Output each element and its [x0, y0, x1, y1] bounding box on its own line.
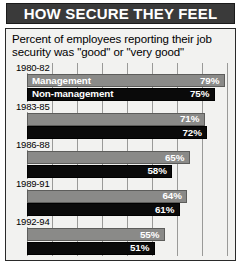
bar-value-label: 55% [140, 230, 160, 240]
category-label: 1989-91 [15, 179, 51, 189]
category-label: 1980-82 [15, 63, 51, 73]
bar-group: 1980-82Management79%Non-management75% [13, 63, 229, 102]
category-label: 1992-94 [15, 217, 51, 227]
bar-value-label: 72% [182, 128, 202, 138]
bar-value-label: 65% [165, 153, 185, 163]
bar-value-label: 58% [147, 166, 167, 176]
bar-non-management: 51% [27, 242, 155, 255]
bar-group: 1992-9455%51% [13, 217, 229, 256]
category-label: 1986-88 [15, 140, 51, 150]
bar-non-management: 72% [27, 126, 207, 139]
bar-non-management: Non-management75% [27, 88, 215, 101]
bar-management: Management79% [27, 74, 225, 87]
bar-management: 71% [27, 113, 205, 126]
chart-figure: HOW SECURE THEY FEEL Percent of employee… [0, 0, 241, 265]
bar-value-label: 64% [162, 191, 182, 201]
bar-value-label: 51% [130, 243, 150, 253]
bar-management: 55% [27, 228, 165, 241]
series-legend-label: Management [32, 76, 91, 86]
chart-title-banner: HOW SECURE THEY FEEL [6, 3, 235, 24]
bar-value-label: 75% [190, 89, 210, 99]
bar-management: 65% [27, 151, 190, 164]
category-label: 1983-85 [15, 102, 51, 112]
bar-management: 64% [27, 190, 187, 203]
page-title: HOW SECURE THEY FEEL [24, 6, 218, 21]
bar-value-label: 71% [180, 114, 200, 124]
bar-group: 1989-9164%61% [13, 179, 229, 218]
bar-non-management: 58% [27, 165, 172, 178]
bar-value-label: 61% [155, 205, 175, 215]
bar-non-management: 61% [27, 203, 180, 216]
bar-group: 1986-8865%58% [13, 140, 229, 179]
chart-subtitle: Percent of employees reporting their job… [12, 33, 233, 59]
bar-value-label: 79% [200, 76, 220, 86]
bar-group: 1983-8571%72% [13, 102, 229, 141]
chart-card: Percent of employees reporting their job… [5, 28, 236, 261]
series-legend-label: Non-management [32, 89, 113, 99]
plot-area: 1980-82Management79%Non-management75%198… [13, 63, 229, 256]
